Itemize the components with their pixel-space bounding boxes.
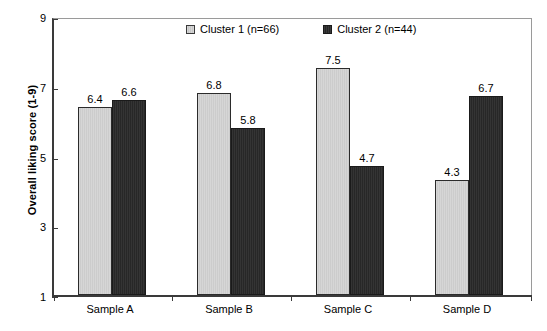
bar-value-cluster1-sample-b: 6.8 <box>206 79 221 91</box>
legend-swatch-icon-cluster-2 <box>323 25 332 34</box>
y-tick-7 <box>52 89 58 90</box>
chart-legend: Cluster 1 (n=66) Cluster 2 (n=44) <box>186 24 416 35</box>
legend-item-cluster-1: Cluster 1 (n=66) <box>186 24 279 35</box>
bar-value-cluster2-sample-b: 5.8 <box>240 114 255 126</box>
y-tick-3 <box>52 228 58 229</box>
bar-cluster1-sample-b: 6.8 <box>197 93 231 295</box>
y-axis-title: Overall liking score (1-9) <box>26 40 38 260</box>
y-tick-label-7: 7 <box>40 82 46 93</box>
y-tick-label-9: 9 <box>40 13 46 24</box>
bar-value-cluster2-sample-a: 6.6 <box>121 86 136 98</box>
x-tick-3 <box>410 295 411 301</box>
x-category-label-sample-b: Sample B <box>205 303 253 315</box>
legend-item-cluster-2: Cluster 2 (n=44) <box>323 24 416 35</box>
legend-label-cluster-2: Cluster 2 (n=44) <box>337 24 416 35</box>
y-tick-5 <box>52 159 58 160</box>
plot-area: 6.4 6.6 6.8 5.8 7.5 4.7 <box>52 18 532 297</box>
y-tick-label-3: 3 <box>40 222 46 233</box>
bar-cluster2-sample-d: 6.7 <box>469 96 503 295</box>
bar-cluster2-sample-a: 6.6 <box>112 100 146 295</box>
bar-cluster2-sample-b: 5.8 <box>231 128 265 295</box>
plot-inner: 6.4 6.6 6.8 5.8 7.5 4.7 <box>54 19 531 295</box>
legend-swatch-icon-cluster-1 <box>186 25 195 34</box>
legend-label-cluster-1: Cluster 1 (n=66) <box>200 24 279 35</box>
y-tick-1 <box>52 297 58 298</box>
x-tick-start <box>54 295 55 301</box>
bar-value-cluster1-sample-c: 7.5 <box>325 54 340 66</box>
x-tick-1 <box>172 295 173 301</box>
x-category-label-sample-d: Sample D <box>443 303 491 315</box>
bar-value-cluster1-sample-a: 6.4 <box>87 93 102 105</box>
y-tick-9 <box>52 19 58 20</box>
bar-value-cluster1-sample-d: 4.3 <box>444 166 459 178</box>
x-tick-2 <box>291 295 292 301</box>
bar-chart: Overall liking score (1-9) 9 7 5 3 1 6.4 <box>0 0 547 331</box>
y-tick-label-1: 1 <box>40 292 46 303</box>
bar-value-cluster2-sample-c: 4.7 <box>359 152 374 164</box>
bar-cluster2-sample-c: 4.7 <box>350 166 384 295</box>
x-category-label-sample-c: Sample C <box>324 303 372 315</box>
y-tick-label-5: 5 <box>40 152 46 163</box>
x-tick-end <box>531 295 532 301</box>
bar-cluster1-sample-a: 6.4 <box>78 107 112 295</box>
bar-value-cluster2-sample-d: 6.7 <box>478 82 493 94</box>
bar-cluster1-sample-d: 4.3 <box>435 180 469 295</box>
bar-cluster1-sample-c: 7.5 <box>316 68 350 295</box>
x-category-label-sample-a: Sample A <box>86 303 133 315</box>
